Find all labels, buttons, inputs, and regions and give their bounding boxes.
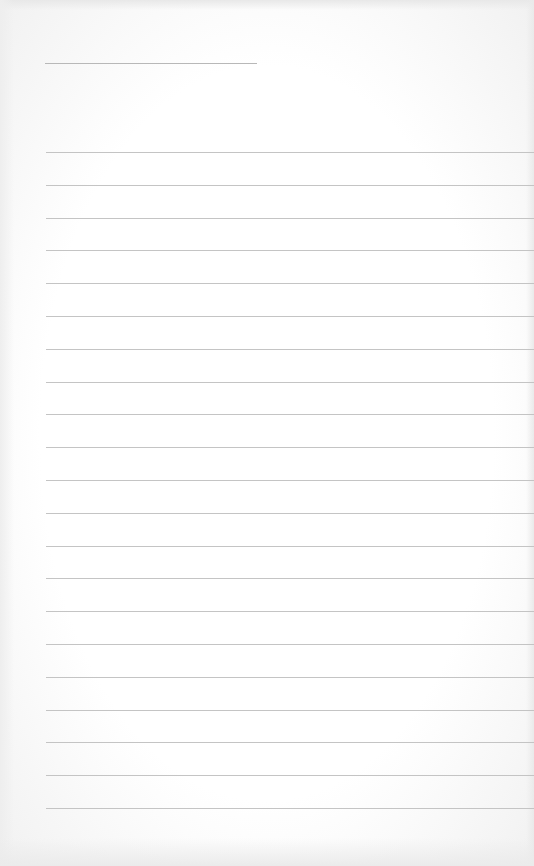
ruled-line	[46, 775, 534, 776]
page-edge-shadow-top	[0, 0, 534, 10]
ruled-line	[46, 185, 534, 186]
title-line	[45, 63, 257, 64]
ruled-line	[46, 152, 534, 153]
ruled-line	[46, 513, 534, 514]
ruled-line	[46, 414, 534, 415]
page-edge-shadow-right	[526, 0, 534, 866]
ruled-line	[46, 742, 534, 743]
ruled-line	[46, 578, 534, 579]
ruled-line	[46, 611, 534, 612]
ruled-line	[46, 218, 534, 219]
ruled-line	[46, 316, 534, 317]
page-edge-shadow-bottom	[0, 838, 534, 866]
ruled-line	[46, 349, 534, 350]
lined-paper-page	[0, 0, 534, 866]
ruled-line	[46, 283, 534, 284]
ruled-line	[46, 447, 534, 448]
ruled-line	[46, 677, 534, 678]
ruled-line	[46, 710, 534, 711]
ruled-line	[46, 382, 534, 383]
ruled-line	[46, 546, 534, 547]
ruled-line	[46, 808, 534, 809]
ruled-line	[46, 250, 534, 251]
ruled-line	[46, 644, 534, 645]
ruled-line	[46, 480, 534, 481]
page-edge-shadow-left	[0, 0, 14, 866]
